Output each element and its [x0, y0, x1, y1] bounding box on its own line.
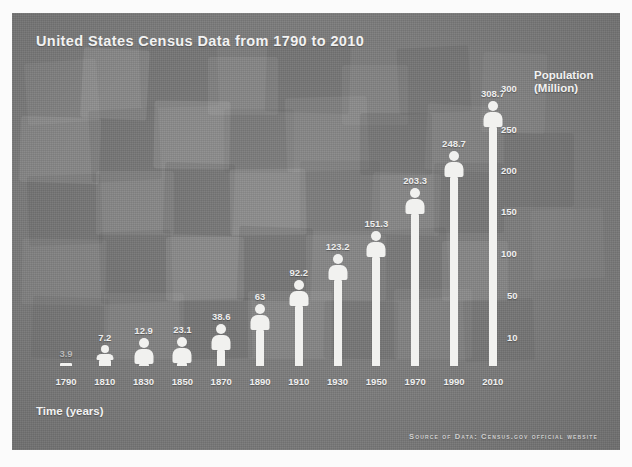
x-axis-tick-1870: 1870: [211, 376, 232, 387]
bar-1910[interactable]: 92.2: [285, 13, 313, 366]
x-axis-tick-1930: 1930: [327, 376, 348, 387]
person-torso-icon: [289, 291, 308, 306]
x-axis-tick-1830: 1830: [133, 376, 154, 387]
x-axis-tick-1810: 1810: [94, 376, 115, 387]
person-torso-icon: [483, 112, 502, 127]
y-axis-tick-300: 300: [501, 83, 517, 94]
bar-stem: [489, 127, 497, 366]
x-axis-title: Time (years): [36, 405, 104, 417]
bar-value-label: 12.9: [134, 325, 153, 336]
y-axis-title-line2: (Million): [534, 82, 593, 95]
y-axis-title-line1: Population: [534, 69, 593, 82]
bar-value-label: 3.9: [59, 348, 72, 359]
x-axis-tick-2010: 2010: [482, 376, 503, 387]
chart-panel: United States Census Data from 1790 to 2…: [12, 13, 620, 450]
bar-stem: [411, 214, 419, 366]
x-axis-tick-1850: 1850: [172, 376, 193, 387]
person-head-icon: [488, 101, 498, 111]
person-torso-icon: [96, 354, 113, 360]
bar-1970[interactable]: 203.3: [401, 13, 429, 366]
x-axis-tick-1890: 1890: [249, 376, 270, 387]
x-axis-tick-1970: 1970: [405, 376, 426, 387]
person-torso-icon: [173, 348, 192, 363]
bar-stem: [217, 350, 225, 366]
bar-1850[interactable]: 23.1: [168, 13, 196, 366]
person-torso-icon: [406, 199, 425, 214]
bar-1890[interactable]: 63: [246, 13, 274, 366]
plot-area: 3.917907.2181012.9183023.1185038.6187063…: [12, 13, 620, 450]
y-axis-tick-100: 100: [501, 248, 517, 259]
bar-value-label: 248.7: [442, 138, 466, 149]
bar-1930[interactable]: 123.2: [324, 13, 352, 366]
y-axis-tick-10: 10: [507, 332, 518, 343]
person-head-icon: [255, 304, 265, 314]
x-axis-tick-1950: 1950: [366, 376, 387, 387]
bar-stem: [256, 330, 264, 366]
bar-stem: [450, 177, 458, 366]
bar-1950[interactable]: 151.3: [362, 13, 390, 366]
bar-value-label: 123.2: [326, 241, 350, 252]
bar-value-label: 63: [255, 291, 266, 302]
person-torso-icon: [212, 335, 231, 350]
y-axis-tick-200: 200: [501, 165, 517, 176]
y-axis-tick-250: 250: [501, 124, 517, 135]
person-torso-icon: [251, 315, 270, 330]
person-head-icon: [216, 324, 226, 334]
person-head-icon: [139, 338, 149, 348]
bar-value-label: 151.3: [365, 218, 389, 229]
bar-stem: [334, 280, 342, 366]
person-head-icon: [410, 188, 420, 198]
person-torso-icon: [445, 162, 464, 177]
bar-1790[interactable]: 3.9: [52, 13, 80, 366]
bar-value-label: 38.6: [212, 311, 231, 322]
person-head-icon: [333, 254, 343, 264]
y-axis-tick-150: 150: [501, 206, 517, 217]
bar-1870[interactable]: 38.6: [207, 13, 235, 366]
bar-value-label: 203.3: [403, 175, 427, 186]
person-head-icon: [177, 337, 187, 347]
bar-value-label: 23.1: [173, 324, 192, 335]
x-axis-tick-1910: 1910: [288, 376, 309, 387]
person-torso-icon: [328, 265, 347, 280]
x-axis-tick-1990: 1990: [443, 376, 464, 387]
chart-poster: United States Census Data from 1790 to 2…: [0, 0, 632, 467]
bar-stem: [99, 360, 111, 366]
y-axis-title: Population(Million): [534, 69, 593, 95]
y-axis-tick-50: 50: [507, 290, 518, 301]
person-head-icon: [101, 345, 109, 353]
bar-stem: [139, 364, 149, 366]
person-torso-icon: [134, 349, 153, 364]
bar-stem: [295, 306, 303, 366]
x-axis-tick-1790: 1790: [55, 376, 76, 387]
bar-value-label: 7.2: [98, 332, 111, 343]
bar-2010[interactable]: 308.7: [479, 13, 507, 366]
source-footnote: Source of Data: Census.gov official webs…: [409, 432, 598, 441]
bar-stem: [60, 363, 72, 366]
bar-stem: [372, 257, 380, 366]
bar-1830[interactable]: 12.9: [130, 13, 158, 366]
person-head-icon: [294, 280, 304, 290]
person-torso-icon: [367, 242, 386, 257]
person-head-icon: [449, 151, 459, 161]
person-head-icon: [371, 231, 381, 241]
bar-1810[interactable]: 7.2: [91, 13, 119, 366]
bar-value-label: 92.2: [290, 267, 309, 278]
bar-stem: [177, 363, 187, 366]
bar-1990[interactable]: 248.7: [440, 13, 468, 366]
